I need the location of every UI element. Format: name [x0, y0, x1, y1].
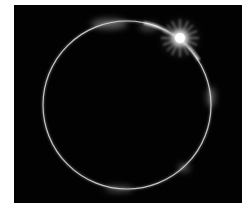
- eclipse-photo: Solar eclipse diamond ring effect with b…: [14, 5, 242, 203]
- eclipse-graphic: [14, 5, 242, 203]
- diamond-flare: [154, 12, 206, 64]
